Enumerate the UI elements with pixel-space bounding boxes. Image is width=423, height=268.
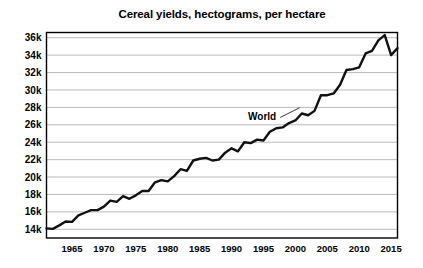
annotation-label: World (248, 111, 276, 122)
x-tick-label: 2005 (317, 243, 339, 254)
gridlines (47, 38, 398, 230)
x-tick-label: 2000 (285, 243, 306, 254)
x-tick-label: 2010 (349, 243, 370, 254)
data-series-world (47, 35, 398, 229)
x-tick-label: 1990 (221, 243, 242, 254)
chart-container: Cereal yields, hectograms, per hectare 1… (0, 0, 423, 268)
y-axis-tick-labels: 14k16k18k20k22k24k26k28k30k32k34k36k (25, 32, 42, 235)
y-tick-label: 30k (25, 85, 42, 96)
y-tick-label: 28k (25, 102, 42, 113)
y-tick-label: 14k (25, 224, 42, 235)
y-tick-label: 36k (25, 32, 42, 43)
y-tick-label: 16k (25, 206, 42, 217)
x-tick-label: 1965 (61, 243, 83, 254)
y-tick-label: 32k (25, 67, 42, 78)
x-tick-label: 1985 (189, 243, 211, 254)
y-tick-label: 24k (25, 137, 42, 148)
x-tick-label: 1975 (125, 243, 147, 254)
x-tick-label: 1995 (253, 243, 275, 254)
series-line-world (47, 35, 398, 229)
x-tick-label: 2015 (381, 243, 403, 254)
annotation-leader-line (280, 108, 300, 118)
y-tick-label: 18k (25, 189, 42, 200)
y-tick-label: 20k (25, 172, 42, 183)
line-chart-plot: 14k16k18k20k22k24k26k28k30k32k34k36k 196… (0, 0, 423, 268)
x-axis-tick-labels: 1965197019751980198519901995200020052010… (61, 243, 402, 254)
series-annotation-world: World (248, 108, 300, 123)
y-tick-label: 34k (25, 50, 42, 61)
x-tick-label: 1980 (157, 243, 178, 254)
y-tick-label: 22k (25, 154, 42, 165)
y-tick-label: 26k (25, 119, 42, 130)
plot-axis-frame (47, 33, 398, 239)
x-tick-label: 1970 (93, 243, 114, 254)
